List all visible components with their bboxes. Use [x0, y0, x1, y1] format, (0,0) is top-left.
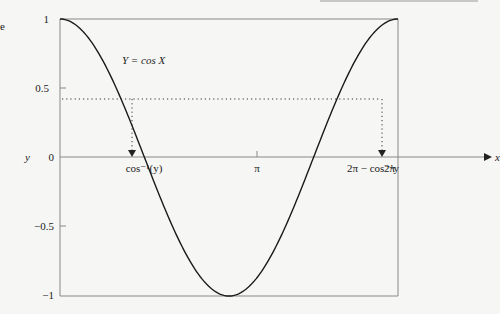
cropped-text: e	[0, 20, 5, 32]
twopi-minus-acos-arrow-icon	[378, 150, 386, 157]
twopi-minus-acos-label: 2π − cos⁻¹y	[347, 162, 400, 174]
ytick-label-neg0.5: −0.5	[34, 220, 54, 232]
curve-label: Y = cos X	[122, 54, 166, 66]
x-axis-label: x	[494, 151, 500, 163]
acos-label: cos⁻¹(y)	[126, 162, 163, 175]
ytick-label-0.5: 0.5	[35, 82, 49, 94]
x-axis-arrow-icon	[484, 153, 492, 161]
ytick-label-0: 0	[49, 151, 55, 163]
cosine-chart: e x y 1 0.5 0 −0.5 −1 π 2π cos⁻¹(y) 2π −…	[0, 0, 500, 314]
xtick-label-pi: π	[254, 162, 260, 174]
y-axis-label: y	[24, 151, 30, 163]
ytick-label-1: 1	[44, 13, 50, 25]
ytick-label-neg1: −1	[42, 289, 54, 301]
acos-arrow-icon	[128, 150, 136, 157]
